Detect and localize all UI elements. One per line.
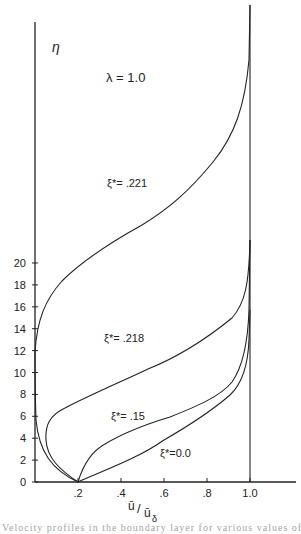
y-tick-label: 16 — [14, 301, 26, 313]
x-tick-label: 1.0 — [242, 487, 257, 499]
y-tick-label: 4 — [20, 432, 26, 444]
x-tick-label: .8 — [202, 487, 211, 499]
curve-label-15: ξ*= .15 — [111, 410, 145, 422]
y-tick-label: 8 — [20, 388, 26, 400]
x-label-denominator: ū — [144, 506, 151, 520]
y-tick-label: 12 — [14, 345, 26, 357]
x-ticks: .2.4.6.81.0 — [73, 478, 257, 499]
y-tick-label: 6 — [20, 410, 26, 422]
x-tick-label: .2 — [73, 487, 82, 499]
figure-caption: Velocity profiles in the boundary layer … — [2, 522, 301, 533]
curve-xi-0-15 — [78, 240, 250, 482]
x-label-numerator: ū — [128, 499, 135, 513]
curve-label-00: ξ*=0.0 — [160, 447, 191, 459]
curve-label-221: ξ*= .221 — [107, 177, 147, 189]
curve-label-218: ξ*= .218 — [104, 332, 144, 344]
chart: 02468101214161820 .2.4.6.81.0 η λ = 1.0 … — [0, 0, 301, 534]
y-tick-label: 18 — [14, 279, 26, 291]
y-tick-label: 10 — [14, 367, 26, 379]
y-tick-label: 2 — [20, 454, 26, 466]
x-axis-label: ū / ū δ — [128, 499, 157, 524]
x-label-slash: / — [137, 501, 141, 516]
x-tick-label: .4 — [116, 487, 125, 499]
eta-label: η — [52, 39, 60, 55]
y-tick-label: 20 — [14, 257, 26, 269]
x-tick-label: .6 — [159, 487, 168, 499]
y-tick-label: 14 — [14, 323, 26, 335]
lambda-label: λ = 1.0 — [106, 70, 145, 85]
curve-xi-0-218 — [46, 240, 250, 482]
y-tick-label: 0 — [20, 476, 26, 488]
